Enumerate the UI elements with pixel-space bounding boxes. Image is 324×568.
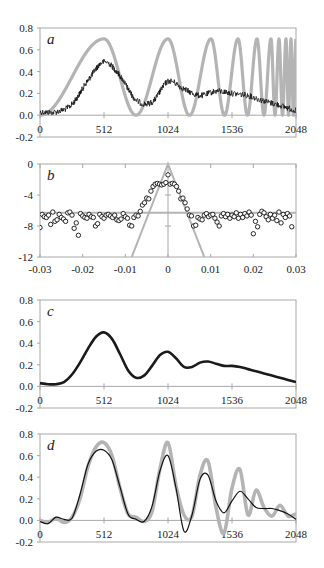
y-tick-label: 0.6 xyxy=(19,450,33,462)
data-point xyxy=(294,0,298,2)
y-tick-label: -12 xyxy=(18,251,33,263)
series-reference-chirp- xyxy=(40,39,296,115)
data-point xyxy=(287,214,291,218)
x-tick-label: 2048 xyxy=(285,528,308,540)
data-point xyxy=(176,189,180,193)
data-point xyxy=(72,226,76,230)
data-point xyxy=(290,225,294,229)
panel-d: 05121024153620480.80.60.40.20.0-0.2d xyxy=(16,428,308,548)
data-point xyxy=(136,214,140,218)
panel-label: a xyxy=(47,31,55,47)
x-tick-label: 0.01 xyxy=(201,263,220,275)
y-tick-label: 0.0 xyxy=(19,514,33,526)
y-tick-label: 0.0 xyxy=(19,109,33,121)
data-point xyxy=(51,210,55,214)
x-tick-label: 0 xyxy=(37,394,43,406)
x-tick-label: -0.03 xyxy=(29,263,52,275)
data-point xyxy=(185,207,189,211)
y-tick-label: -4 xyxy=(24,189,34,201)
x-tick-label: 512 xyxy=(96,123,113,135)
data-point xyxy=(272,213,276,217)
data-point xyxy=(130,224,134,228)
x-tick-label: 0 xyxy=(165,263,171,275)
x-tick-label: 0.02 xyxy=(244,263,263,275)
data-point xyxy=(255,225,259,229)
data-point xyxy=(63,219,67,223)
data-point xyxy=(174,184,178,188)
y-tick-label: 0.0 xyxy=(19,380,33,392)
plot-frame xyxy=(40,434,296,542)
data-point xyxy=(279,221,283,225)
data-point xyxy=(183,201,187,205)
x-tick-label: 1536 xyxy=(221,394,244,406)
x-tick-label: 1024 xyxy=(157,394,180,406)
series-group xyxy=(40,39,296,115)
data-point xyxy=(217,224,221,228)
panel-label: b xyxy=(47,167,55,183)
data-point xyxy=(275,218,279,222)
panel-label: c xyxy=(47,303,54,319)
data-point xyxy=(55,218,59,222)
x-tick-label: 1024 xyxy=(157,528,180,540)
plot-frame xyxy=(40,300,296,408)
y-tick-label: 0.6 xyxy=(19,44,33,56)
data-point xyxy=(200,218,204,222)
panel-label: d xyxy=(47,437,55,453)
x-tick-label: 2048 xyxy=(285,394,308,406)
x-tick-label: 1024 xyxy=(157,123,180,135)
x-tick-label: 0.03 xyxy=(286,263,306,275)
data-point xyxy=(253,219,257,223)
data-point xyxy=(166,173,170,177)
x-tick-label: -0.01 xyxy=(114,263,137,275)
data-point xyxy=(234,211,238,215)
data-point xyxy=(91,215,95,219)
panel-c: 05121024153620480.80.60.40.20.0-0.2c xyxy=(16,294,308,414)
data-point xyxy=(189,214,193,218)
y-tick-label: -0.2 xyxy=(16,402,33,414)
y-tick-label: 0.8 xyxy=(19,22,33,34)
data-point xyxy=(46,213,50,217)
data-point xyxy=(142,201,146,205)
data-point xyxy=(181,196,185,200)
y-tick-label: 0.2 xyxy=(19,87,33,99)
x-tick-label: 512 xyxy=(96,394,113,406)
y-tick-label: 0.2 xyxy=(19,493,33,505)
y-tick-label: 0.6 xyxy=(19,316,33,328)
data-point xyxy=(266,218,270,222)
data-point xyxy=(125,216,129,220)
data-point xyxy=(138,209,142,213)
y-tick-label: 0.4 xyxy=(19,66,33,78)
data-point xyxy=(74,221,78,225)
y-tick-label: 0.8 xyxy=(19,294,33,306)
y-tick-label: 0.4 xyxy=(19,471,33,483)
y-tick-label: -0.2 xyxy=(16,536,33,548)
y-tick-label: 0 xyxy=(28,158,34,170)
data-point xyxy=(70,213,74,217)
y-tick-label: -8 xyxy=(24,220,34,232)
series-group xyxy=(40,332,296,384)
data-point xyxy=(48,222,52,226)
data-point xyxy=(292,0,296,2)
x-tick-label: 0 xyxy=(37,123,43,135)
data-point xyxy=(277,210,281,214)
data-point xyxy=(112,213,116,217)
series-smoothed-estimate xyxy=(40,332,296,384)
figure: 05121024153620480.80.60.40.20.0-0.2a-0.0… xyxy=(0,0,324,568)
y-tick-label: 0.4 xyxy=(19,337,33,349)
data-point xyxy=(194,223,198,227)
x-tick-label: 2048 xyxy=(285,123,308,135)
y-tick-label: 0.2 xyxy=(19,359,33,371)
data-point xyxy=(149,189,153,193)
data-point xyxy=(251,232,255,236)
data-point xyxy=(147,197,151,201)
x-tick-label: 0 xyxy=(37,528,43,540)
data-point xyxy=(95,221,99,225)
data-point xyxy=(249,213,253,217)
panel-a: 05121024153620480.80.60.40.20.0-0.2a xyxy=(16,22,308,143)
x-tick-label: -0.02 xyxy=(71,263,94,275)
x-tick-label: 1536 xyxy=(221,123,244,135)
y-tick-label: 0.8 xyxy=(19,428,33,440)
data-point xyxy=(164,180,168,184)
data-point xyxy=(119,217,123,221)
data-point xyxy=(76,233,80,237)
